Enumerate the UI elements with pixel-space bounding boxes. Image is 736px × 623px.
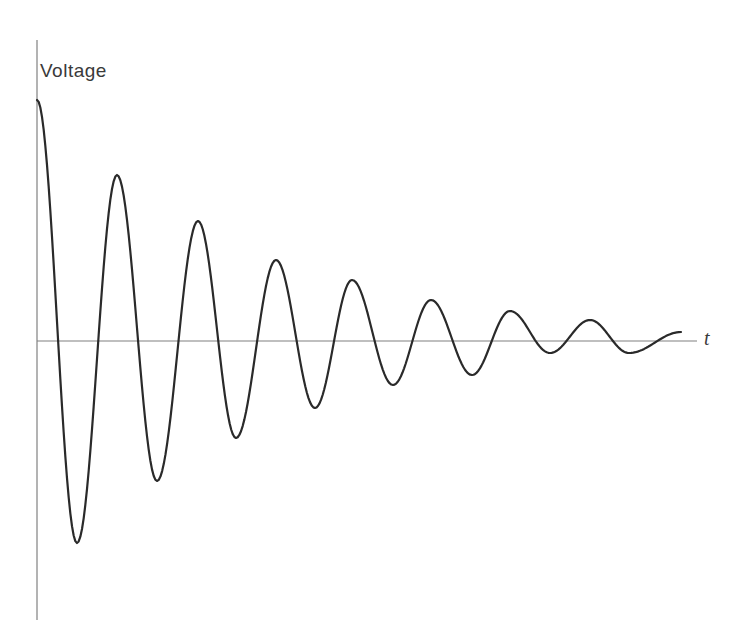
y-axis-label: Voltage bbox=[40, 60, 107, 82]
x-axis-label: t bbox=[704, 327, 710, 350]
voltage-curve bbox=[37, 100, 681, 543]
damped-oscillation-chart bbox=[0, 0, 736, 623]
